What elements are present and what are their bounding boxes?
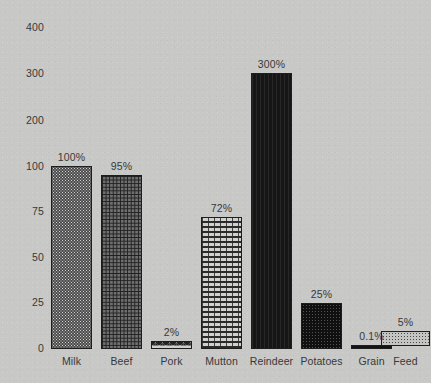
bar-value-mutton: 72%: [201, 203, 242, 214]
y-axis-tick-25: 25: [10, 297, 44, 308]
y-axis-tick-50: 50: [10, 252, 44, 263]
bar-chart: 400 300 200 100 75 50 25 0 100% 95% 2% 7…: [0, 0, 431, 383]
bar-value-feed: 5%: [381, 317, 430, 328]
y-axis-tick-300: 300: [10, 68, 44, 79]
bar-value-beef: 95%: [101, 161, 142, 172]
x-axis-label-pork: Pork: [148, 355, 195, 367]
bar-beef: [101, 175, 142, 349]
x-axis-label-beef: Beef: [98, 355, 145, 367]
bar-reindeer: [251, 73, 292, 349]
bar-value-potatoes: 25%: [301, 289, 342, 300]
x-axis-label-potatoes: Potatoes: [296, 355, 347, 367]
bar-value-reindeer: 300%: [251, 59, 292, 70]
y-axis-tick-100: 100: [10, 161, 44, 172]
bar-potatoes: [301, 303, 342, 349]
y-axis-tick-0: 0: [10, 343, 44, 354]
x-axis-label-mutton: Mutton: [196, 355, 247, 367]
bar-mutton: [201, 217, 242, 349]
bar-milk: [51, 166, 92, 349]
bar-value-milk: 100%: [51, 152, 92, 163]
x-axis-label-feed: Feed: [382, 355, 429, 367]
x-axis-label-milk: Milk: [48, 355, 95, 367]
x-axis-label-reindeer: Reindeer: [244, 355, 299, 367]
y-axis-tick-200: 200: [10, 115, 44, 126]
y-axis-tick-75: 75: [10, 206, 44, 217]
bar-pork: [151, 341, 192, 349]
bar-value-pork: 2%: [151, 327, 192, 338]
bar-value-grain: 0.1%: [348, 331, 395, 342]
y-axis-tick-400: 400: [10, 22, 44, 33]
